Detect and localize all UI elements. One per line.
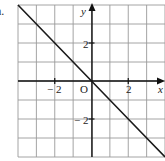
y-axis-arrow-icon	[89, 3, 96, 11]
y-tick-label-neg2: − 2	[74, 114, 88, 126]
y-tick-label-2: 2	[83, 38, 89, 50]
x-tick-label-2: 2	[126, 83, 132, 95]
x-tick-label-neg2: − 2	[47, 83, 61, 95]
line-graph: x y O − 2 2 2 − 2	[0, 0, 165, 161]
origin-label: O	[80, 83, 88, 95]
y-axis-label: y	[80, 5, 86, 17]
x-axis-label: x	[157, 83, 163, 95]
